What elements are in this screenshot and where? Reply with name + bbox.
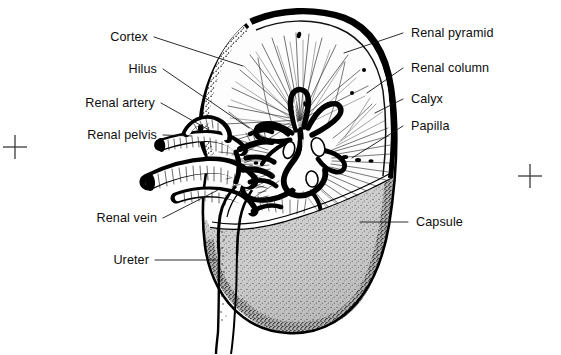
label-renal-pelvis: Renal pelvis [87,128,157,142]
label-renal-vein: Renal vein [96,211,157,225]
label-capsule: Capsule [416,215,463,229]
label-renal-pyramid: Renal pyramid [411,26,494,40]
label-renal-artery: Renal artery [85,96,155,110]
label-hilus: Hilus [129,62,158,76]
label-renal-column: Renal column [411,61,489,75]
label-papilla: Papilla [411,119,450,133]
right-registration-cross [518,164,542,188]
label-calyx: Calyx [411,92,444,106]
label-ureter: Ureter [113,253,149,267]
kidney-illustration: Cortex Hilus Renal artery Renal pelvis R… [0,0,561,355]
kidney-diagram-figure: Cortex Hilus Renal artery Renal pelvis R… [0,0,561,355]
label-cortex: Cortex [110,30,148,44]
left-registration-cross [3,135,27,159]
